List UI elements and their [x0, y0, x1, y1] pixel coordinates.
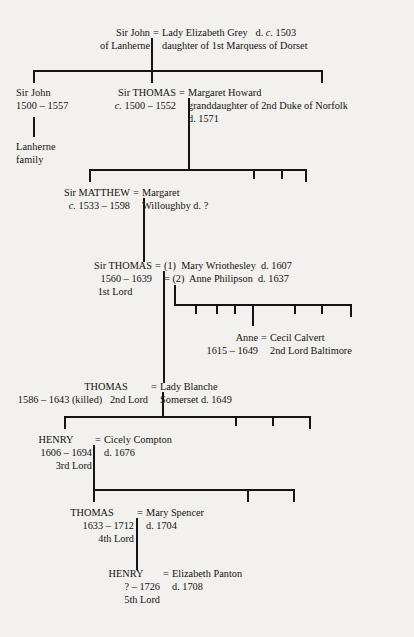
- person-name: HENRY: [92, 567, 160, 580]
- person-dates: 1615 – 1649: [196, 344, 258, 357]
- person-title: 3rd Lord: [20, 459, 92, 472]
- person-dates: 1606 – 1694: [20, 446, 92, 459]
- marriage-symbol: =: [148, 380, 160, 393]
- connector-stub-gen6-sibling-2: [272, 416, 274, 426]
- dates-range: 1500 – 1552: [125, 100, 176, 111]
- person-name: Cecil Calvert: [270, 331, 352, 344]
- person-death: d. 1607: [261, 260, 292, 271]
- person-detail: Somerset d. 1649: [160, 393, 232, 406]
- person-name: Cicely Compton: [104, 433, 172, 446]
- person-name: Mary Spencer: [146, 506, 204, 519]
- connector-sibling-bar-gen7: [93, 489, 295, 491]
- person-name: Anne: [196, 331, 258, 344]
- person-title: 4th Lord: [50, 532, 134, 545]
- couple-henry-5th-lord-elizabeth-panton: HENRY ? – 1726 5th Lord = Elizabeth Pant…: [92, 567, 242, 606]
- person-detail: of Lanherne: [100, 39, 150, 52]
- spouse-1: (1) Mary Wriothesley d. 1607: [164, 259, 292, 272]
- person-thomas-1500: Sir THOMAS c. 1500 – 1552: [104, 86, 176, 112]
- couple-thomas-1500-margaret-howard: Sir THOMAS c. 1500 – 1552 = Margaret How…: [104, 86, 348, 125]
- connector-stub-philipson-child-5: [294, 304, 296, 314]
- person-dates: ? – 1726: [92, 580, 160, 593]
- connector-stub-gen3-sibling-1: [253, 169, 255, 179]
- marriage-symbol: =: [176, 86, 188, 99]
- family-tree-diagram: Sir John of Lanherne = Lady Elizabeth Gr…: [0, 0, 414, 637]
- person-death: d. 1708: [172, 580, 242, 593]
- person-detail: Willoughby d. ?: [142, 199, 208, 212]
- connector-stub-philipson-child-1: [195, 304, 197, 314]
- person-title: 1st Lord: [78, 285, 152, 298]
- person-dates: 1586 – 1643 (killed): [18, 394, 102, 405]
- person-name: Anne Philipson: [189, 273, 253, 284]
- person-dates: c. 1500 – 1552: [104, 99, 176, 112]
- person-name: HENRY: [20, 433, 92, 446]
- person-cecil-calvert: Cecil Calvert 2nd Lord Baltimore: [270, 331, 352, 357]
- person-elizabeth-panton: Elizabeth Panton d. 1708: [172, 567, 242, 593]
- connector-stub-john-1500: [33, 70, 35, 83]
- person-lady-blanche: Lady Blanche Somerset d. 1649: [160, 380, 232, 406]
- person-name: Mary Wriothesley: [181, 260, 256, 271]
- person-name: Elizabeth Panton: [172, 567, 242, 580]
- person-thomas-1560: Sir THOMAS 1560 – 1639 1st Lord: [78, 259, 152, 298]
- connector-stub-philipson-child-2: [216, 304, 218, 314]
- connector-stub-thomas-1500: [151, 70, 153, 83]
- note-line-2: family: [16, 153, 56, 166]
- connector-sibling-bar-philipson-children: [174, 304, 352, 306]
- person-name: Sir MATTHEW: [40, 186, 130, 199]
- connector-descent-thomas-2nd-lord: [162, 392, 164, 417]
- person-name: THOMAS: [50, 506, 134, 519]
- couple-henry-3rd-lord-cicely-compton: HENRY 1606 – 1694 3rd Lord = Cicely Comp…: [20, 433, 172, 472]
- connector-stub-gen7-sibling-2: [293, 489, 295, 502]
- connector-descent-anne-philipson-marriage: [174, 285, 176, 306]
- person-death: d. 1571: [188, 112, 348, 125]
- person-title: 2nd Lord Baltimore: [270, 344, 352, 357]
- connector-descent-gen1: [151, 38, 153, 71]
- person-henry-5th-lord: HENRY ? – 1726 5th Lord: [92, 567, 160, 606]
- death-prefix: d.: [256, 27, 264, 38]
- marriage-number: (1): [164, 260, 176, 271]
- dates-circa: c.: [69, 200, 76, 211]
- marriage-number: (2): [172, 273, 184, 284]
- couple-anne-cecil-calvert: Anne 1615 – 1649 = Cecil Calvert 2nd Lor…: [196, 331, 352, 357]
- couple-thomas-2nd-lord-lady-blanche: THOMAS 1586 – 1643 (killed) 2nd Lord = L…: [14, 380, 232, 406]
- person-matthew: Sir MATTHEW c. 1533 – 1598: [40, 186, 130, 212]
- connector-stub-thomas-4th-lord: [93, 489, 95, 502]
- person-john-1500: Sir John 1500 – 1557: [16, 86, 69, 112]
- person-name: Sir John: [16, 86, 69, 99]
- spouse-2: = (2) Anne Philipson d. 1637: [164, 272, 292, 285]
- connector-descent-thomas-1560: [163, 271, 165, 383]
- connector-stub-gen6-sibling-1: [235, 416, 237, 426]
- connector-descent-thomas-4th-lord: [136, 518, 138, 570]
- connector-stub-gen7-sibling-1: [247, 489, 249, 502]
- connector-stub-gen3-sibling-3: [305, 169, 307, 182]
- death-year: 1503: [276, 27, 297, 38]
- person-title: 2nd Lord: [110, 394, 148, 405]
- connector-stub-gen2-other: [321, 70, 323, 83]
- person-name: Sir THOMAS: [104, 86, 176, 99]
- person-margaret-howard: Margaret Howard granddaughter of 2nd Duk…: [188, 86, 348, 125]
- connector-stub-matthew: [89, 169, 91, 182]
- couple-thomas-1560-marriages: Sir THOMAS 1560 – 1639 1st Lord = (1) Ma…: [78, 259, 292, 298]
- note-line-1: Lanherne: [16, 140, 56, 153]
- person-cicely-compton: Cicely Compton d. 1676: [104, 433, 172, 459]
- connector-stub-gen6-sibling-3: [309, 416, 311, 429]
- connector-stub-philipson-child-6: [321, 304, 323, 314]
- person-name: THOMAS: [14, 380, 148, 393]
- connector-sibling-bar-gen3: [89, 169, 307, 171]
- couple-matthew-margaret-willoughby: Sir MATTHEW c. 1533 – 1598 = Margaret Wi…: [40, 186, 208, 212]
- connector-sibling-bar-gen2: [33, 70, 323, 72]
- person-name: Margaret: [142, 186, 208, 199]
- connector-stub-philipson-child-3: [234, 304, 236, 314]
- person-title: 5th Lord: [92, 593, 160, 606]
- person-henry-3rd-lord: HENRY 1606 – 1694 3rd Lord: [20, 433, 92, 472]
- connector-descent-matthew: [143, 198, 145, 262]
- person-margaret-willoughby: Margaret Willoughby d. ?: [142, 186, 208, 212]
- connector-descent-thomas-1500: [188, 98, 190, 170]
- person-death: d. 1704: [146, 519, 204, 532]
- marriage-symbol: =: [130, 186, 142, 199]
- marriage-symbol: =: [258, 331, 270, 344]
- connector-stub-philipson-child-7: [350, 304, 352, 317]
- dates-circa: c.: [115, 100, 122, 111]
- person-name: Sir John: [100, 26, 150, 39]
- person-thomas-2nd-lord: THOMAS 1586 – 1643 (killed) 2nd Lord: [14, 380, 148, 406]
- person-detail: daughter of 1st Marquess of Dorset: [162, 39, 308, 52]
